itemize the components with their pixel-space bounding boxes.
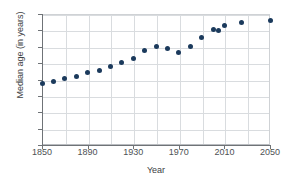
y-tick-mark [38,63,42,64]
x-tick-label: 1850 [22,148,62,157]
gridline-v [157,15,158,144]
x-tick-mark [42,145,43,149]
x-tick-label: 2050 [250,148,290,157]
y-tick-mark [38,47,42,48]
gridline-v [248,15,249,144]
data-point [154,44,159,49]
data-point [131,56,136,61]
y-tick-mark [38,129,42,130]
gridline-h [43,31,269,32]
x-tick-mark [88,145,89,149]
gridline-v [180,15,181,144]
x-axis-spine [42,145,271,146]
x-tick-mark [179,145,180,149]
gridline-v [225,15,226,144]
y-tick-mark [38,14,42,15]
gridline-h [43,15,269,16]
y-tick-mark [38,30,42,31]
x-tick-mark [224,145,225,149]
data-point [74,74,79,79]
x-tick-label: 1930 [113,148,153,157]
y-tick-mark [38,112,42,113]
data-point [108,64,113,69]
gridline-h [43,130,269,131]
gridline-h [43,81,269,82]
x-tick-mark [270,145,271,149]
x-tick-label: 2010 [204,148,244,157]
data-point [142,48,147,53]
data-point [40,81,45,86]
x-tick-label: 1890 [68,148,108,157]
x-axis-label: Year [42,165,270,175]
gridline-h [43,113,269,114]
data-point [239,20,244,25]
gridline-v [134,15,135,144]
gridline-h [43,97,269,98]
plot-area [42,14,270,145]
x-tick-mark [133,145,134,149]
data-point [188,44,193,49]
data-point [211,27,216,32]
gridline-v [89,15,90,144]
data-point [51,79,56,84]
gridline-v [111,15,112,144]
x-tick-label: 1970 [159,148,199,157]
chart-figure: 0510152025303540 18501890193019702010205… [0,0,290,184]
data-point [119,60,124,65]
y-axis-label: Median age (in years) [15,0,25,125]
data-point [97,68,102,73]
gridline-h [43,64,269,65]
data-point [268,18,273,23]
y-tick-mark [38,96,42,97]
data-point [165,46,170,51]
